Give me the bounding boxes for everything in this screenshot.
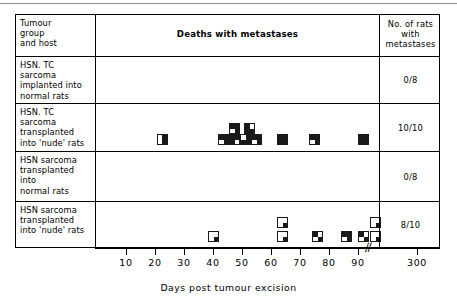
- scan-artifact-line: [0, 3, 457, 4]
- marker-quadrant: [250, 124, 255, 129]
- axis-tick: [126, 248, 127, 255]
- data-marker: [312, 231, 323, 242]
- row-count-4: 8/10: [379, 202, 441, 248]
- row1-label-line-1: HSN. TC: [20, 60, 95, 70]
- header-cell-count: No. of rats with metastases: [379, 15, 441, 56]
- data-marker: [244, 123, 255, 134]
- data-marker: [240, 134, 251, 145]
- marker-quadrant: [283, 223, 288, 228]
- axis-tick: [300, 248, 301, 255]
- axis-tick-label: 50: [229, 257, 255, 268]
- marker-quadrant: [230, 129, 235, 134]
- row-plot-area-2: [96, 104, 379, 151]
- row3-label-line-1: HSN sarcoma: [20, 155, 95, 165]
- data-marker: [251, 134, 262, 145]
- axis-tick: [213, 248, 214, 255]
- data-marker: [229, 134, 240, 145]
- axis-caption: Days post tumour excision: [0, 282, 457, 293]
- row2-label-line-4: into 'nude' rats: [20, 138, 95, 148]
- row-count-3: 0/8: [379, 152, 441, 201]
- row-label-group-2: HSN. TC sarcoma transplanted into 'nude'…: [16, 104, 96, 151]
- row-plot-area-1: [96, 57, 379, 103]
- marker-half-fill: [158, 135, 162, 144]
- marker-quadrant: [364, 237, 369, 242]
- axis-tick: [329, 248, 330, 255]
- header-cell-plot: Deaths with metastases: [96, 15, 379, 56]
- row-label-group-4: HSN sarcoma transplanted into 'nude' rat…: [16, 202, 96, 248]
- row4-label-line-2: transplanted: [20, 215, 95, 225]
- data-marker: [358, 231, 369, 242]
- table-row: HSN sarcoma transplanted into normal rat…: [16, 152, 439, 202]
- axis-tick-label: 10: [113, 257, 139, 268]
- header-count-line-3: metastases: [380, 39, 441, 49]
- row-plot-area-4: [96, 202, 379, 248]
- row4-label-line-1: HSN sarcoma: [20, 205, 95, 215]
- row4-label-line-3: into 'nude' rats: [20, 225, 95, 235]
- axis-tick: [184, 248, 185, 255]
- marker-quadrant: [347, 237, 352, 242]
- axis-tick: [358, 248, 359, 255]
- figure-table: Tumour group and host Deaths with metast…: [15, 14, 440, 248]
- data-marker: [229, 123, 240, 134]
- axis-tick-label: 40: [200, 257, 226, 268]
- row-label-group-1: HSN. TC sarcoma implanted into normal ra…: [16, 57, 96, 103]
- axis-tick-label: 60: [258, 257, 284, 268]
- axis-tick-label: 80: [316, 257, 342, 268]
- data-marker: [277, 134, 288, 145]
- row2-label-line-2: sarcoma: [20, 117, 95, 127]
- row3-label-line-4: normal rats: [20, 186, 95, 196]
- table-row: HSN sarcoma transplanted into 'nude' rat…: [16, 202, 439, 248]
- row2-label-line-3: transplanted: [20, 127, 95, 137]
- header-group-line-3: and host: [20, 38, 95, 48]
- axis-tick-label: 70: [287, 257, 313, 268]
- data-marker: [341, 231, 352, 242]
- plot-title: Deaths with metastases: [96, 29, 379, 39]
- row3-label-line-2: transplanted: [20, 165, 95, 175]
- marker-quadrant: [214, 237, 219, 242]
- table-row: HSN. TC sarcoma transplanted into 'nude'…: [16, 104, 439, 152]
- axis-tick: [417, 248, 418, 255]
- axis-tick-label: 300: [404, 257, 430, 268]
- axis-tick-label: 20: [142, 257, 168, 268]
- marker-quadrant: [219, 140, 224, 145]
- marker-quadrant: [283, 237, 288, 242]
- data-marker: [277, 231, 288, 242]
- data-marker: [218, 134, 229, 145]
- row1-label-line-4: normal rats: [20, 91, 95, 101]
- row1-label-line-3: implanted into: [20, 80, 95, 90]
- header-count-line-1: No. of rats: [380, 19, 441, 29]
- data-marker: [309, 134, 320, 145]
- data-marker: [208, 231, 219, 242]
- axis-tick: [242, 248, 243, 255]
- header-count-line-2: with: [380, 29, 441, 39]
- table-header-row: Tumour group and host Deaths with metast…: [16, 15, 439, 57]
- data-marker: [358, 134, 369, 145]
- axis-tick-label: 90: [345, 257, 371, 268]
- row-count-2: 10/10: [379, 104, 441, 151]
- marker-quadrant: [310, 140, 315, 145]
- header-cell-group: Tumour group and host: [16, 15, 96, 56]
- row1-label-line-2: sarcoma: [20, 70, 95, 80]
- marker-quadrant: [318, 237, 323, 242]
- row-count-1: 0/8: [379, 57, 441, 103]
- data-marker: [277, 217, 288, 228]
- row-plot-area-3: [96, 152, 379, 201]
- marker-quadrant: [235, 140, 240, 145]
- axis-tick-label: 30: [171, 257, 197, 268]
- header-group-line-1: Tumour: [20, 18, 95, 28]
- data-marker: [157, 134, 168, 145]
- axis-tick: [155, 248, 156, 255]
- axis-line: [95, 248, 440, 249]
- row-label-group-3: HSN sarcoma transplanted into normal rat…: [16, 152, 96, 201]
- axis-tick: [271, 248, 272, 255]
- row3-label-line-3: into: [20, 175, 95, 185]
- marker-quadrant: [252, 140, 257, 145]
- header-group-line-2: group: [20, 28, 95, 38]
- marker-quadrant: [241, 135, 246, 140]
- row2-label-line-1: HSN. TC: [20, 107, 95, 117]
- table-row: HSN. TC sarcoma implanted into normal ra…: [16, 57, 439, 104]
